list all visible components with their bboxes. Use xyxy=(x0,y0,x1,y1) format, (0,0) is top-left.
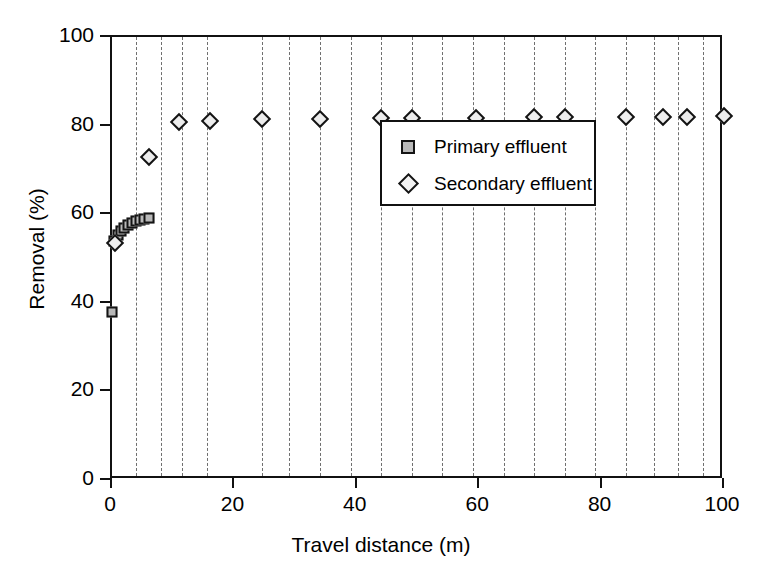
x-axis-tick xyxy=(355,478,357,488)
gridline-vertical xyxy=(207,37,208,476)
gridline-vertical xyxy=(289,37,290,476)
y-axis-tick xyxy=(100,124,110,126)
y-axis-tick xyxy=(100,212,110,214)
diamond-marker-icon xyxy=(382,176,434,191)
x-axis-tick xyxy=(232,478,234,488)
gridline-vertical xyxy=(504,37,505,476)
gridline-vertical xyxy=(703,37,704,476)
x-axis-tick xyxy=(477,478,479,488)
data-point-secondary xyxy=(678,108,696,126)
gridline-vertical xyxy=(262,37,263,476)
legend-label-secondary: Secondary effluent xyxy=(434,174,592,194)
plot-area xyxy=(110,35,722,478)
legend-entry-secondary: Secondary effluent xyxy=(382,167,594,200)
x-axis-tick xyxy=(600,478,602,488)
chart-figure: 020406080100020406080100 Removal (%) Tra… xyxy=(0,0,762,575)
gridline-vertical xyxy=(534,37,535,476)
x-axis-tick xyxy=(722,478,724,488)
gridline-vertical xyxy=(351,37,352,476)
data-point-secondary xyxy=(170,113,188,131)
gridline-vertical xyxy=(626,37,627,476)
square-marker-icon xyxy=(382,140,434,154)
data-point-primary xyxy=(143,212,154,223)
x-axis-tick-label: 80 xyxy=(565,493,635,515)
x-axis-tick-label: 20 xyxy=(197,493,267,515)
data-point-secondary xyxy=(311,109,329,127)
gridline-vertical xyxy=(161,37,162,476)
y-axis-tick xyxy=(100,389,110,391)
data-point-secondary xyxy=(617,108,635,126)
x-axis-tick-label: 40 xyxy=(320,493,390,515)
data-point-secondary xyxy=(654,108,672,126)
data-point-secondary xyxy=(715,107,733,125)
gridline-vertical xyxy=(381,37,382,476)
data-point-secondary xyxy=(253,110,271,128)
y-axis-title: Removal (%) xyxy=(26,99,48,399)
y-axis-tick xyxy=(100,301,110,303)
gridline-vertical xyxy=(473,37,474,476)
gridline-vertical xyxy=(442,37,443,476)
data-point-secondary xyxy=(201,112,219,130)
gridline-vertical xyxy=(136,37,137,476)
gridline-vertical xyxy=(678,37,679,476)
gridline-vertical xyxy=(565,37,566,476)
y-axis-tick xyxy=(100,478,110,480)
legend-label-primary: Primary effluent xyxy=(434,137,567,157)
y-axis-tick-label: 100 xyxy=(36,24,94,45)
gridline-vertical xyxy=(654,37,655,476)
y-axis-tick xyxy=(100,35,110,37)
y-axis-tick-label: 0 xyxy=(36,467,94,488)
gridline-vertical xyxy=(320,37,321,476)
data-point-primary xyxy=(107,306,118,317)
gridline-vertical xyxy=(412,37,413,476)
x-axis-tick-label: 60 xyxy=(442,493,512,515)
data-point-secondary xyxy=(140,147,158,165)
x-axis-tick-label: 0 xyxy=(75,493,145,515)
gridline-vertical xyxy=(595,37,596,476)
x-axis-tick-label: 100 xyxy=(687,493,757,515)
x-axis-title: Travel distance (m) xyxy=(0,534,762,556)
chart-legend: Primary effluent Secondary effluent xyxy=(380,120,596,206)
legend-entry-primary: Primary effluent xyxy=(382,130,594,163)
x-axis-tick xyxy=(110,478,112,488)
gridline-vertical xyxy=(182,37,183,476)
